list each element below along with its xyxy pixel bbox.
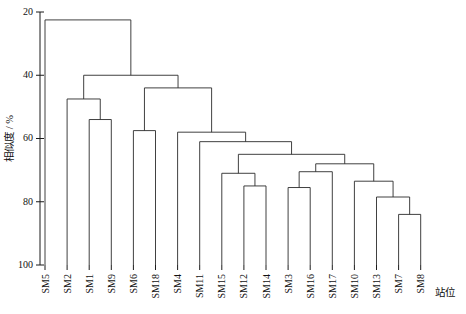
dendrogram-link xyxy=(178,132,246,265)
leaf-label: SM2 xyxy=(62,274,73,293)
dendrogram-link xyxy=(354,181,393,265)
dendrogram-link xyxy=(399,214,421,265)
y-tick-label: 80 xyxy=(23,196,33,207)
y-tick-label: 20 xyxy=(23,6,33,17)
leaf-label: SM12 xyxy=(238,274,249,298)
dendrogram-plot: 20406080100 SM5SM2SM1SM9SM6SM18SM4SM11SM… xyxy=(0,0,466,314)
dendrogram-link xyxy=(377,197,410,265)
y-tick-label: 40 xyxy=(23,69,33,80)
dendrogram-link xyxy=(45,20,131,265)
dendrogram-figure: 20406080100 SM5SM2SM1SM9SM6SM18SM4SM11SM… xyxy=(0,0,466,314)
dendrogram-link xyxy=(133,131,155,265)
dendrogram-links xyxy=(45,20,421,265)
leaf-label: SM10 xyxy=(349,274,360,298)
leaf-label: SM11 xyxy=(194,274,205,298)
leaf-label: SM15 xyxy=(216,274,227,298)
dendrogram-link xyxy=(200,142,292,265)
dendrogram-link xyxy=(222,173,255,265)
leaf-label: SM9 xyxy=(106,274,117,293)
dendrogram-link xyxy=(89,120,111,265)
dendrogram-link xyxy=(288,188,310,265)
leaf-label: SM5 xyxy=(40,274,51,293)
leaf-label: SM18 xyxy=(150,274,161,298)
dendrogram-link xyxy=(67,99,100,265)
y-tick-label: 60 xyxy=(23,132,33,143)
leaf-label-group: SM5SM2SM1SM9SM6SM18SM4SM11SM15SM12SM14SM… xyxy=(40,274,427,298)
x-tick-group xyxy=(45,265,421,270)
y-tick-label: 100 xyxy=(18,259,33,270)
leaf-label: SM1 xyxy=(84,274,95,293)
leaf-label: SM13 xyxy=(371,274,382,298)
leaf-label: SM4 xyxy=(172,274,183,293)
leaf-label: SM6 xyxy=(128,274,139,293)
leaf-label: SM8 xyxy=(415,274,426,293)
dendrogram-link xyxy=(316,164,374,181)
dendrogram-link xyxy=(299,172,332,265)
x-axis-title: 站位 xyxy=(435,286,456,298)
dendrogram-link xyxy=(244,186,266,265)
y-axis: 20406080100 xyxy=(18,6,44,270)
leaf-label: SM16 xyxy=(305,274,316,298)
leaf-label: SM7 xyxy=(393,274,404,293)
leaf-label: SM14 xyxy=(261,274,272,298)
y-axis-title: 相似度 / % xyxy=(3,115,15,162)
leaf-label: SM3 xyxy=(283,274,294,293)
dendrogram-link xyxy=(84,75,178,99)
dendrogram-link xyxy=(144,88,211,132)
leaf-label: SM17 xyxy=(327,274,338,298)
